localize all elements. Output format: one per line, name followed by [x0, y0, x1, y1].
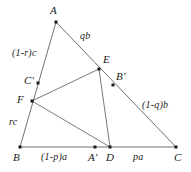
point-dot-B-prime: [112, 84, 115, 87]
segment-cevian-F-D: [32, 101, 110, 147]
point-label-C: C: [174, 152, 182, 163]
segment-cevian-F-E: [32, 69, 99, 101]
point-dot-E: [98, 68, 101, 71]
point-dot-A-prime: [94, 146, 97, 149]
point-label-B-prime: B': [116, 71, 125, 82]
segment-cevian-E-D: [99, 69, 110, 147]
point-label-A: A: [50, 5, 57, 16]
point-dot-B: [19, 146, 22, 149]
point-label-C-prime: C': [24, 75, 34, 86]
point-dot-C-prime: [37, 82, 40, 85]
point-label-B: B: [13, 152, 20, 163]
triangle-diagram-svg: [0, 0, 191, 172]
side-label-qb: qb: [80, 31, 90, 41]
point-label-F: F: [17, 94, 24, 105]
point-dot-F: [31, 100, 34, 103]
point-dot-D: [109, 146, 112, 149]
point-label-D: D: [106, 152, 114, 163]
figure-root: A B C D E F A' B' C' qb (1-q)b (1-r)c rc…: [0, 0, 191, 172]
side-label-one-minus-r-c: (1-r)c: [12, 48, 37, 58]
segment-side-AC: [56, 22, 176, 147]
side-label-rc: rc: [9, 117, 17, 127]
side-label-one-minus-p-a: (1-p)a: [41, 152, 67, 162]
point-dot-C: [175, 146, 178, 149]
point-dot-A: [55, 21, 58, 24]
point-label-A-prime: A': [88, 152, 97, 163]
side-label-pa: pa: [133, 152, 143, 162]
point-label-E: E: [103, 54, 110, 65]
side-label-one-minus-q-b: (1-q)b: [142, 100, 168, 110]
